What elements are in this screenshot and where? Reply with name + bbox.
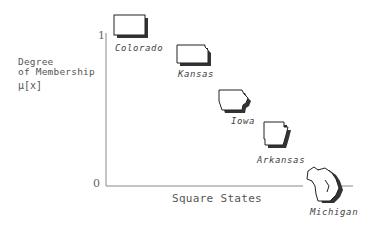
- state-label-colorado: Colorado: [115, 43, 163, 53]
- y-tick-bottom: 0: [93, 177, 100, 190]
- state-label-michigan: Michigan: [310, 207, 358, 217]
- kansas-shape-icon: [177, 45, 211, 66]
- membership-symbol: μ[x]: [18, 80, 42, 91]
- colorado-shape-icon: [114, 15, 148, 38]
- iowa-shape-icon: [219, 90, 251, 113]
- michigan-shape-icon: [307, 167, 343, 203]
- y-axis-label-line2: of Membership: [18, 67, 95, 77]
- state-label-arkansas: Arkansas: [257, 155, 305, 165]
- arkansas-shape-icon: [264, 122, 291, 148]
- state-label-kansas: Kansas: [178, 69, 214, 79]
- state-label-iowa: Iowa: [231, 116, 255, 126]
- y-axis-label: Degree of Membership: [18, 57, 95, 77]
- y-tick-top: 1: [98, 29, 105, 42]
- x-axis-label: Square States: [172, 192, 262, 205]
